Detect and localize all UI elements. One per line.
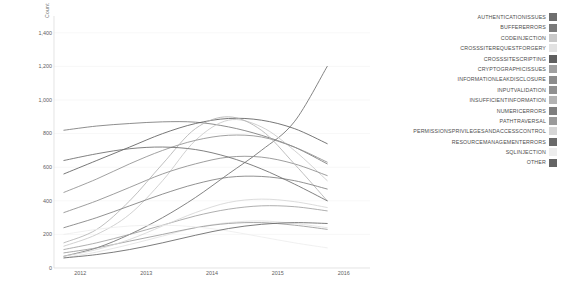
- legend-item[interactable]: CODEINJECTION: [325, 33, 557, 43]
- legend-color-swatch: [549, 117, 557, 125]
- legend-item[interactable]: BUFFERERRORS: [325, 22, 557, 32]
- legend-item[interactable]: INPUTVALIDATION: [325, 85, 557, 95]
- legend-color-swatch: [549, 65, 557, 73]
- x-axis-tick-label: 2014: [192, 270, 232, 276]
- legend-color-swatch: [549, 148, 557, 156]
- series-line: [64, 225, 327, 248]
- legend-item-label: NUMERICERRORS: [497, 106, 549, 116]
- y-axis-ticks: 02004006008001,0001,2001,400: [8, 0, 52, 291]
- legend-item-label: PATHTRAVERSAL: [500, 116, 549, 126]
- legend-item[interactable]: PATHTRAVERSAL: [325, 116, 557, 126]
- x-axis-tick-label: 2013: [126, 270, 166, 276]
- legend-item[interactable]: OTHER: [325, 157, 557, 167]
- legend-color-swatch: [549, 138, 557, 146]
- chart-screenshot: Count 02004006008001,0001,2001,400 20122…: [0, 0, 563, 291]
- series-line: [64, 176, 327, 228]
- legend-color-swatch: [549, 44, 557, 52]
- legend-item-label: INFORMATIONLEAKDISCLOSURE: [458, 74, 549, 84]
- legend-color-swatch: [549, 159, 557, 167]
- y-axis-tick-label: 600: [16, 164, 52, 170]
- legend-item-label: SQLINJECTION: [506, 147, 549, 157]
- legend-item-label: CRYPTOGRAPHICISSUES: [478, 64, 549, 74]
- legend-item-label: RESOURCEMANAGEMENTERRORS: [452, 137, 549, 147]
- y-axis-tick-label: 800: [16, 130, 52, 136]
- legend-item-label: INSUFFICIENTINFORMATION: [469, 95, 549, 105]
- legend-color-swatch: [549, 13, 557, 21]
- y-axis-tick-label: 1,200: [16, 63, 52, 69]
- legend-item[interactable]: INSUFFICIENTINFORMATION: [325, 95, 557, 105]
- x-axis-tick-label: 2012: [60, 270, 100, 276]
- y-axis-tick-label: 1,000: [16, 97, 52, 103]
- legend-item-label: CROSSSITESCRIPTING: [484, 54, 549, 64]
- legend-color-swatch: [549, 96, 557, 104]
- series-line: [64, 118, 327, 174]
- chart-legend: AUTHENTICATIONISSUESBUFFERERRORSCODEINJE…: [325, 12, 557, 168]
- x-axis-tick-label: 2016: [324, 270, 364, 276]
- legend-color-swatch: [549, 86, 557, 94]
- legend-item-label: CODEINJECTION: [501, 33, 549, 43]
- legend-item-label: OTHER: [527, 157, 549, 167]
- legend-color-swatch: [549, 107, 557, 115]
- legend-color-swatch: [549, 24, 557, 32]
- legend-item[interactable]: AUTHENTICATIONISSUES: [325, 12, 557, 22]
- legend-item[interactable]: CROSSSITESCRIPTING: [325, 54, 557, 64]
- legend-color-swatch: [549, 55, 557, 63]
- legend-color-swatch: [549, 34, 557, 42]
- legend-item[interactable]: RESOURCEMANAGEMENTERRORS: [325, 137, 557, 147]
- legend-item-label: PERMISSIONSPRIVILEGESANDACCESSCONTROL: [413, 126, 549, 136]
- legend-item-label: BUFFERERRORS: [500, 22, 549, 32]
- legend-item-label: CROSSSITEREQUESTFORGERY: [460, 43, 549, 53]
- legend-item-label: AUTHENTICATIONISSUES: [477, 12, 549, 22]
- legend-item[interactable]: INFORMATIONLEAKDISCLOSURE: [325, 74, 557, 84]
- y-axis-tick-label: 1,400: [16, 30, 52, 36]
- legend-color-swatch: [549, 76, 557, 84]
- legend-item[interactable]: PERMISSIONSPRIVILEGESANDACCESSCONTROL: [325, 126, 557, 136]
- legend-item-label: INPUTVALIDATION: [497, 85, 549, 95]
- legend-item[interactable]: CRYPTOGRAPHICISSUES: [325, 64, 557, 74]
- legend-item[interactable]: SQLINJECTION: [325, 147, 557, 157]
- legend-item[interactable]: NUMERICERRORS: [325, 106, 557, 116]
- legend-color-swatch: [549, 127, 557, 135]
- x-axis-ticks: 20122013201420152016: [0, 270, 390, 284]
- x-axis-tick-label: 2015: [258, 270, 298, 276]
- legend-item[interactable]: CROSSSITEREQUESTFORGERY: [325, 43, 557, 53]
- y-axis-tick-label: 200: [16, 231, 52, 237]
- series-line: [64, 147, 327, 201]
- y-axis-tick-label: 400: [16, 198, 52, 204]
